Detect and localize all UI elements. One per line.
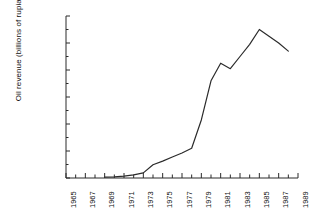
- data-series-line: [105, 30, 289, 178]
- chart-figure: Oil revenue (billions of rupiahs) 020004…: [0, 0, 318, 217]
- axes: [66, 16, 298, 178]
- plot-area: [0, 0, 318, 217]
